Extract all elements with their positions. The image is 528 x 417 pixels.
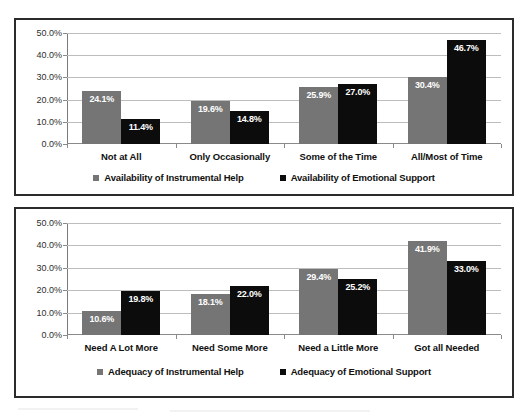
category-label: Some of the Time xyxy=(284,151,393,162)
bar-group: 24.1%11.4% xyxy=(67,33,176,144)
x-axis-tick-mark xyxy=(67,144,68,148)
bar-value-label: 11.4% xyxy=(129,122,153,132)
category-label: Not at All xyxy=(67,151,176,162)
y-axis-tick-label: 10.0% xyxy=(36,308,62,318)
y-axis-tick-label: 20.0% xyxy=(36,285,62,295)
bar: 30.4% xyxy=(408,77,447,144)
bar-value-label: 22.0% xyxy=(237,289,262,299)
scan-artifact xyxy=(170,410,370,412)
legend-item[interactable]: Adequacy of Instrumental Help xyxy=(97,366,244,377)
legend-label: Availability of Instrumental Help xyxy=(104,172,243,183)
bar-group: 25.9%27.0% xyxy=(284,33,393,144)
y-axis-tick-label: 0.0% xyxy=(41,139,62,149)
adequacy-chart: 0.0%10.0%20.0%30.0%40.0%50.0% 10.6%19.8%… xyxy=(14,207,514,398)
bar: 18.1% xyxy=(191,294,230,335)
x-axis-tick-mark xyxy=(393,144,394,148)
category-label: Need Some More xyxy=(176,342,285,353)
chart-legend: Availability of Instrumental HelpAvailab… xyxy=(16,172,512,183)
bar-group: 18.1%22.0% xyxy=(176,223,285,335)
y-axis-tick-label: 10.0% xyxy=(36,117,62,127)
bar-value-label: 24.1% xyxy=(89,94,114,104)
x-axis-tick-mark xyxy=(284,144,285,148)
bar-groups: 10.6%19.8%18.1%22.0%29.4%25.2%41.9%33.0% xyxy=(67,223,501,335)
x-axis-tick-mark xyxy=(501,144,502,148)
bar-value-label: 19.6% xyxy=(198,104,223,114)
bar-group: 10.6%19.8% xyxy=(67,223,176,335)
bar-value-label: 18.1% xyxy=(198,297,223,307)
y-axis-tick-label: 50.0% xyxy=(36,218,62,228)
bar-value-label: 27.0% xyxy=(345,87,370,97)
bar-value-label: 30.4% xyxy=(415,80,440,90)
bar: 19.6% xyxy=(191,101,230,145)
category-label: All/Most of Time xyxy=(393,151,502,162)
bar: 29.4% xyxy=(299,269,338,335)
legend-label: Adequacy of Instrumental Help xyxy=(108,366,244,377)
bar: 11.4% xyxy=(121,119,160,144)
x-axis-tick-mark xyxy=(176,335,177,339)
x-axis-ticks xyxy=(67,335,501,339)
y-axis-tick-label: 20.0% xyxy=(36,95,62,105)
legend-swatch-icon xyxy=(280,175,286,181)
legend-label: Adequacy of Emotional Support xyxy=(291,366,431,377)
adequacy-plot-area: 0.0%10.0%20.0%30.0%40.0%50.0% 10.6%19.8%… xyxy=(67,223,501,335)
legend-swatch-icon xyxy=(97,369,103,375)
bar: 10.6% xyxy=(82,311,121,335)
bar: 25.9% xyxy=(299,87,338,144)
y-axis-tick-label: 30.0% xyxy=(36,263,62,273)
legend-item[interactable]: Availability of Instrumental Help xyxy=(93,172,243,183)
legend-item[interactable]: Adequacy of Emotional Support xyxy=(280,366,431,377)
bar-value-label: 19.8% xyxy=(128,294,153,304)
category-label: Need A Lot More xyxy=(67,342,176,353)
availability-chart: 0.0%10.0%20.0%30.0%40.0%50.0% 24.1%11.4%… xyxy=(14,18,514,196)
bar: 14.8% xyxy=(230,111,269,144)
bar-group: 30.4%46.7% xyxy=(393,33,502,144)
legend-swatch-icon xyxy=(93,175,99,181)
bar: 33.0% xyxy=(447,261,486,335)
bar: 24.1% xyxy=(82,91,121,145)
chart-legend: Adequacy of Instrumental HelpAdequacy of… xyxy=(16,366,512,377)
bar: 22.0% xyxy=(230,286,269,335)
bar-value-label: 46.7% xyxy=(454,43,479,53)
y-axis-tick-label: 40.0% xyxy=(36,240,62,250)
category-labels: Not at AllOnly OccasionallySome of the T… xyxy=(67,151,501,162)
bar: 41.9% xyxy=(408,241,447,335)
category-label: Only Occasionally xyxy=(176,151,285,162)
bar: 46.7% xyxy=(447,40,486,144)
bar-value-label: 29.4% xyxy=(306,272,331,282)
bar: 25.2% xyxy=(338,279,377,335)
bar-group: 19.6%14.8% xyxy=(176,33,285,144)
scanned-figure-page: 0.0%10.0%20.0%30.0%40.0%50.0% 24.1%11.4%… xyxy=(0,0,528,417)
category-labels: Need A Lot MoreNeed Some MoreNeed a Litt… xyxy=(67,342,501,353)
x-axis-tick-mark xyxy=(501,335,502,339)
y-axis-tick-label: 30.0% xyxy=(36,72,62,82)
bar-value-label: 33.0% xyxy=(454,264,479,274)
bar-group: 41.9%33.0% xyxy=(393,223,502,335)
legend-swatch-icon xyxy=(280,369,286,375)
category-label: Got all Needed xyxy=(393,342,502,353)
bar-value-label: 10.6% xyxy=(89,314,114,324)
bar-value-label: 25.2% xyxy=(345,282,370,292)
legend-label: Availability of Emotional Support xyxy=(291,172,435,183)
x-axis-tick-mark xyxy=(393,335,394,339)
bar-group: 29.4%25.2% xyxy=(284,223,393,335)
category-label: Need a Little More xyxy=(284,342,393,353)
scan-artifact xyxy=(18,408,138,410)
y-axis-tick-label: 50.0% xyxy=(36,28,62,38)
x-axis-tick-mark xyxy=(176,144,177,148)
availability-plot-area: 0.0%10.0%20.0%30.0%40.0%50.0% 24.1%11.4%… xyxy=(67,33,501,144)
x-axis-tick-mark xyxy=(67,335,68,339)
y-axis-tick-label: 40.0% xyxy=(36,50,62,60)
legend-item[interactable]: Availability of Emotional Support xyxy=(280,172,435,183)
bar: 27.0% xyxy=(338,84,377,144)
bar-groups: 24.1%11.4%19.6%14.8%25.9%27.0%30.4%46.7% xyxy=(67,33,501,144)
bar-value-label: 14.8% xyxy=(237,114,262,124)
y-axis-tick-label: 0.0% xyxy=(41,330,62,340)
top-cut-text xyxy=(34,0,334,8)
bar-value-label: 25.9% xyxy=(306,90,331,100)
x-axis-ticks xyxy=(67,144,501,148)
x-axis-tick-mark xyxy=(284,335,285,339)
bar: 19.8% xyxy=(121,291,160,335)
bar-value-label: 41.9% xyxy=(415,244,440,254)
